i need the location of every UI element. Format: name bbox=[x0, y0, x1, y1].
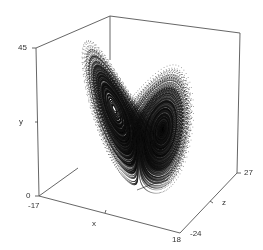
z-axis-label: z bbox=[222, 199, 226, 207]
x-tick-label-max: 18 bbox=[172, 236, 181, 244]
box-edge bbox=[237, 33, 240, 173]
box-edge bbox=[39, 168, 78, 196]
y-tick-label-max: 45 bbox=[18, 44, 27, 52]
box-edge bbox=[110, 16, 240, 33]
z-tick-label-max: 27 bbox=[244, 169, 253, 177]
z-axis-line bbox=[180, 173, 237, 233]
axes-box bbox=[0, 0, 263, 250]
z-tick bbox=[210, 201, 213, 203]
x-axis-line bbox=[39, 196, 180, 233]
x-tick bbox=[105, 210, 106, 213]
z-tick-label-min: -24 bbox=[190, 230, 202, 238]
y-tick-label-min: 0 bbox=[26, 192, 30, 200]
box-edge bbox=[36, 16, 110, 48]
y-axis-label: y bbox=[19, 118, 23, 126]
x-tick-label-min: -17 bbox=[28, 202, 40, 210]
x-axis-label: x bbox=[92, 220, 96, 228]
